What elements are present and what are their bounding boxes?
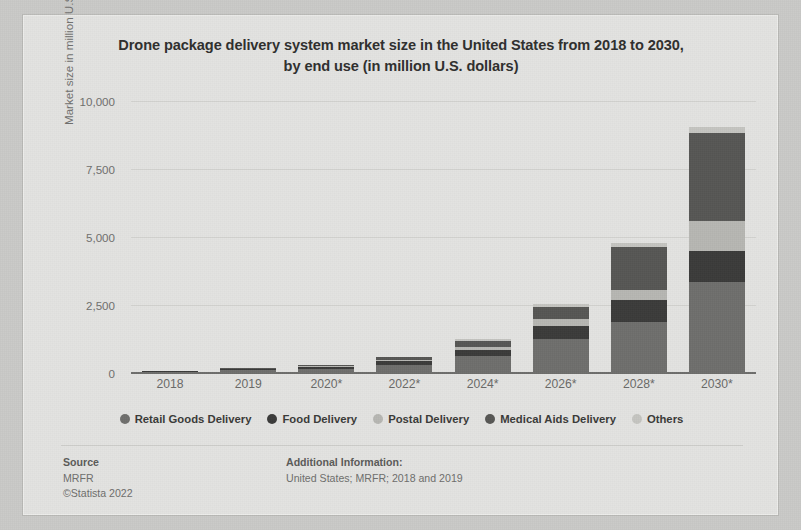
legend-item[interactable]: Others (632, 413, 683, 425)
legend-label: Food Delivery (282, 413, 357, 425)
x-axis-tick: 2022* (376, 377, 432, 391)
chart-title: Drone package delivery system market siz… (51, 35, 751, 77)
y-axis-tick: 10,000 (15, 95, 115, 108)
plot-area: 02,5005,0007,50010,000 (131, 101, 756, 373)
footer-copyright: ©Statista 2022 (63, 486, 133, 502)
stacked-bar[interactable] (689, 101, 745, 373)
y-axis-tick: 2,500 (15, 299, 115, 312)
bar-segment[interactable] (142, 372, 198, 373)
chart-card: Drone package delivery system market siz… (22, 14, 779, 516)
stacked-bar[interactable] (376, 101, 432, 373)
legend-swatch-icon (120, 414, 130, 424)
footer-additional-text: United States; MRFR; 2018 and 2019 (286, 471, 463, 487)
y-axis-tick: 5,000 (15, 231, 115, 244)
bar-segment[interactable] (455, 356, 511, 373)
stacked-bar[interactable] (220, 101, 276, 373)
legend-label: Postal Delivery (388, 413, 469, 425)
x-axis-tick: 2020* (298, 377, 354, 391)
y-axis-tick: 7,500 (15, 163, 115, 176)
stacked-bar[interactable] (455, 101, 511, 373)
bar-segment[interactable] (689, 221, 745, 251)
legend-item[interactable]: Medical Aids Delivery (485, 413, 616, 425)
x-axis-tick: 2026* (533, 377, 589, 391)
chart-title-line2: by end use (in million U.S. dollars) (51, 56, 751, 77)
legend-swatch-icon (373, 414, 383, 424)
bar-segment[interactable] (533, 326, 589, 340)
stacked-bar[interactable] (142, 101, 198, 373)
bar-segment[interactable] (689, 133, 745, 221)
bar-segment[interactable] (298, 369, 354, 373)
chart-legend: Retail Goods DeliveryFood DeliveryPostal… (23, 413, 780, 425)
bar-segment[interactable] (220, 370, 276, 373)
stacked-bar[interactable] (533, 101, 589, 373)
bar-group (131, 101, 756, 373)
stacked-bar[interactable] (298, 101, 354, 373)
x-axis-tick: 2019 (220, 377, 276, 391)
footer-additional-heading: Additional Information: (286, 455, 463, 471)
x-axis-tick: 2018 (142, 377, 198, 391)
bar-segment[interactable] (611, 290, 667, 301)
bar-segment[interactable] (376, 365, 432, 373)
chart-title-line1: Drone package delivery system market siz… (118, 37, 683, 53)
footer-source-heading: Source (63, 455, 133, 471)
bar-segment[interactable] (689, 282, 745, 373)
footer-divider (61, 445, 743, 446)
legend-label: Others (647, 413, 683, 425)
bar-segment[interactable] (689, 251, 745, 282)
x-axis-tick: 2028* (611, 377, 667, 391)
footer-source-name: MRFR (63, 471, 133, 487)
stacked-bar[interactable] (611, 101, 667, 373)
x-axis-labels: 201820192020*2022*2024*2026*2028*2030* (131, 377, 756, 391)
legend-item[interactable]: Postal Delivery (373, 413, 469, 425)
x-axis-tick: 2024* (455, 377, 511, 391)
bar-segment[interactable] (611, 247, 667, 290)
x-axis-tick: 2030* (689, 377, 745, 391)
bar-segment[interactable] (611, 322, 667, 373)
legend-swatch-icon (267, 414, 277, 424)
legend-label: Medical Aids Delivery (500, 413, 616, 425)
legend-swatch-icon (485, 414, 495, 424)
footer-additional: Additional Information: United States; M… (286, 455, 463, 486)
bar-segment[interactable] (533, 307, 589, 319)
bar-segment[interactable] (611, 300, 667, 321)
legend-swatch-icon (632, 414, 642, 424)
screenshot-page: Drone package delivery system market siz… (0, 0, 801, 530)
y-axis-tick: 0 (15, 367, 115, 380)
footer-source: Source MRFR ©Statista 2022 (63, 455, 133, 502)
legend-label: Retail Goods Delivery (135, 413, 252, 425)
bar-segment[interactable] (533, 339, 589, 373)
legend-item[interactable]: Retail Goods Delivery (120, 413, 252, 425)
legend-item[interactable]: Food Delivery (267, 413, 357, 425)
